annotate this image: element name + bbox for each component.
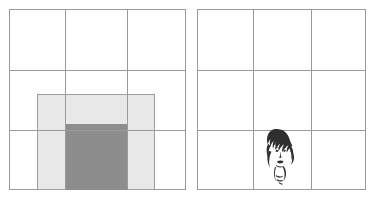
grid-vertical-line-2-right [311,9,312,190]
grid-vertical-line-1-right [253,9,254,190]
womans-face-ink-sketch [259,127,297,185]
figure-canvas [0,0,377,201]
grid-horizontal-line-2-right [197,130,366,131]
grid-horizontal-line-1-right [197,70,366,71]
grid-vertical-line-1-left [65,9,66,190]
grid-vertical-line-2-left [127,9,128,190]
dark-gray-rectangle [65,124,127,190]
panel-border-right [197,9,366,190]
face-sketch-panel [197,9,366,190]
shaded-region-panel [9,9,186,190]
grid-horizontal-line-1-left [9,70,186,71]
grid-horizontal-line-2-left [9,130,186,131]
